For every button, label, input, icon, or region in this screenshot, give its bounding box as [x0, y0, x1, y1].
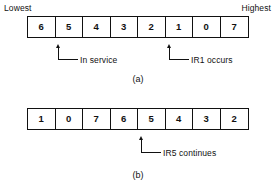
- register-cell: 4: [83, 17, 111, 37]
- scale-label-lowest: Lowest: [4, 3, 32, 13]
- register-cell: 0: [56, 109, 84, 129]
- register-cell: 0: [193, 17, 221, 37]
- register-cell: 6: [28, 17, 56, 37]
- register-cell: 7: [83, 109, 111, 129]
- priority-register-a: 6 5 4 3 2 1 0 7: [27, 16, 249, 38]
- callout-label: IR5 continues: [163, 149, 216, 158]
- register-cell: 3: [111, 17, 139, 37]
- register-cell: 2: [138, 17, 166, 37]
- callout-label: IR1 occurs: [191, 56, 233, 65]
- register-cell: 1: [28, 109, 56, 129]
- callout-leader-horizontal: [58, 59, 78, 60]
- callout-leader-horizontal: [141, 152, 161, 153]
- scale-label-highest: Highest: [241, 3, 271, 13]
- register-cell: 4: [166, 109, 194, 129]
- panel-caption-a: (a): [0, 75, 276, 84]
- priority-register-b: 1 0 7 6 5 4 3 2: [27, 108, 249, 130]
- register-cell: 6: [111, 109, 139, 129]
- panel-caption-b: (b): [0, 171, 276, 180]
- register-cell: 5: [138, 109, 166, 129]
- register-cell: 1: [166, 17, 194, 37]
- priority-rotation-figure: Lowest Highest 6 5 4 3 2 1 0 7 In servic…: [0, 0, 276, 188]
- register-cell: 7: [221, 17, 249, 37]
- register-cell: 5: [56, 17, 84, 37]
- callout-leader-horizontal: [169, 59, 189, 60]
- register-cell: 2: [221, 109, 249, 129]
- register-cell: 3: [193, 109, 221, 129]
- callout-label: In service: [80, 56, 117, 65]
